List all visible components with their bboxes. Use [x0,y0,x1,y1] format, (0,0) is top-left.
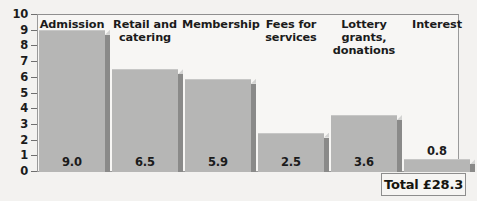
category-label-admission: Admission [39,18,105,31]
category-label-line: Retail and [112,18,178,31]
bar-shape: 0.8 [404,159,470,172]
y-axis: 10 9 8 7 6 5 4 3 2 1 0 [0,8,37,178]
category-label-fees-for-services: Fees for services [258,18,324,44]
total-box: Total £28.3 [381,173,466,196]
category-label-retail-and-catering: Retail and catering [112,18,178,44]
bar-value-label: 0.8 [404,144,470,158]
category-label-line: services [258,31,324,44]
y-axis-tick: 3 [0,118,37,130]
category-labels: Admission Retail and catering Membership… [37,14,459,74]
category-label-membership: Membership [182,18,254,31]
bar-value-label: 9.0 [39,155,105,169]
bar-shape: 3.6 [331,115,397,172]
y-axis-tick: 2 [0,134,37,146]
y-axis-tick: 0 [0,165,37,177]
category-label-lottery-grants-donations: Lottery grants, donations [331,18,397,57]
y-axis-tick: 1 [0,149,37,161]
bar-value-label: 5.9 [185,155,251,169]
y-axis-tick: 8 [0,39,37,51]
y-axis-tick: 4 [0,102,37,114]
chart-screenshot: 10 9 8 7 6 5 4 3 2 1 0 9.0 6.5 5.9 [0,0,477,201]
total-label: Total £28.3 [384,177,463,192]
bar-shape: 6.5 [112,69,178,172]
bar-shape: 5.9 [185,79,251,172]
bar-value-label: 2.5 [258,155,324,169]
y-axis-tick: 5 [0,87,37,99]
bar-value-label: 6.5 [112,155,178,169]
category-label-line: catering [112,31,178,44]
category-label-line: donations [331,44,397,57]
category-label-line: Interest [404,18,470,31]
y-axis-tick: 10 [0,8,37,20]
bar-shape: 2.5 [258,133,324,173]
y-axis-tick: 6 [0,71,37,83]
y-axis-tick: 7 [0,55,37,67]
category-label-line: Membership [182,18,254,31]
category-label-line: Admission [39,18,105,31]
category-label-line: Fees for [258,18,324,31]
category-label-line: Lottery [331,18,397,31]
bar-value-label: 3.6 [331,155,397,169]
y-axis-tick: 9 [0,24,37,36]
category-label-interest: Interest [404,18,470,31]
category-label-line: grants, [331,31,397,44]
